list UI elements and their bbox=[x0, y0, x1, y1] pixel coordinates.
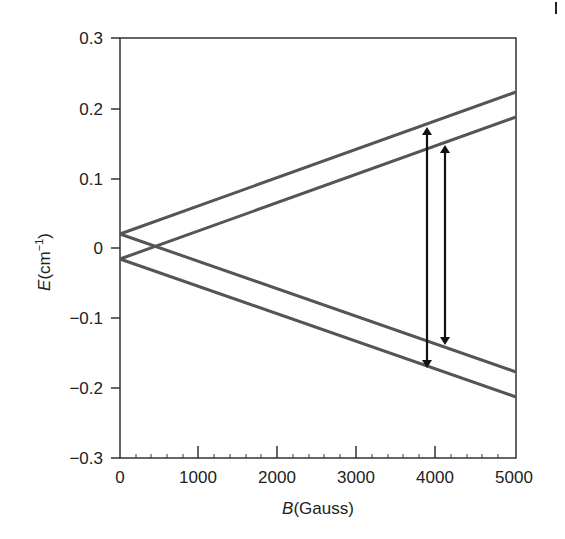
y-axis bbox=[111, 38, 120, 458]
x-tick-label: 4000 bbox=[416, 468, 454, 487]
y-tick-label: 0.2 bbox=[79, 100, 103, 119]
y-tick-label: −0.3 bbox=[69, 449, 103, 468]
series-level-4 bbox=[120, 259, 516, 397]
x-tick-label: 5000 bbox=[495, 468, 533, 487]
x-tick-label: 3000 bbox=[337, 468, 375, 487]
y-axis-label: E(cm−1) bbox=[33, 233, 54, 291]
y-tick-label: −0.1 bbox=[69, 309, 103, 328]
x-tick-label: 1000 bbox=[179, 468, 217, 487]
series-lines bbox=[120, 92, 516, 397]
x-axis-label: B(Gauss) bbox=[282, 499, 354, 518]
series-level-1 bbox=[120, 92, 516, 234]
y-tick-label: −0.2 bbox=[69, 379, 103, 398]
series-level-2 bbox=[120, 117, 516, 259]
x-axis bbox=[198, 446, 435, 458]
y-tick-labels: 0.3 0.2 0.1 0 −0.1 −0.2 −0.3 bbox=[69, 29, 103, 468]
series-level-3 bbox=[120, 234, 516, 372]
plot-frame bbox=[120, 38, 516, 458]
transition-arrows bbox=[427, 131, 445, 364]
y-tick-label: 0.1 bbox=[79, 170, 103, 189]
chart: 0.3 0.2 0.1 0 −0.1 −0.2 −0.3 0 1000 2000… bbox=[0, 0, 565, 539]
y-tick-label: 0.3 bbox=[79, 29, 103, 48]
x-tick-label: 2000 bbox=[258, 468, 296, 487]
y-tick-label: 0 bbox=[94, 239, 103, 258]
x-tick-labels: 0 1000 2000 3000 4000 5000 bbox=[115, 468, 533, 487]
x-tick-label: 0 bbox=[115, 468, 124, 487]
